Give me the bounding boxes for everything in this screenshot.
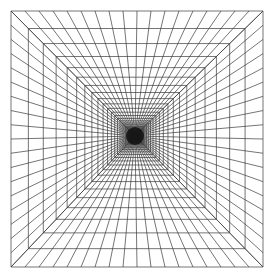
radial-line [39,11,135,136]
tunnel-grid-drawing [0,0,268,276]
radial-line [135,136,249,267]
radial-line [135,39,263,136]
radial-line [135,136,263,267]
radial-line [135,11,221,136]
radial-line [109,11,135,136]
radial-line [11,82,135,136]
radial-line [109,136,135,267]
radial-line [11,39,135,136]
radial-line [81,11,135,136]
radial-line [135,11,137,136]
radial-line [39,136,135,267]
radial-line [135,136,263,182]
radial-line [25,136,135,267]
radial-line [135,136,151,267]
radial-line [135,136,207,267]
radial-line [135,82,263,136]
vanishing-point-blob [126,127,144,145]
radial-line [135,136,263,210]
radial-line [11,136,135,267]
radial-line [135,136,221,267]
tunnel-illusion-figure: Perspective tunnel grid illusion [0,0,268,276]
radial-line [135,136,137,267]
radial-line [135,136,263,253]
radial-line [135,11,263,136]
radial-line [135,11,151,136]
radial-line [11,136,135,224]
radial-line [11,136,135,182]
radial-line [11,11,135,136]
radial-line [11,136,135,210]
